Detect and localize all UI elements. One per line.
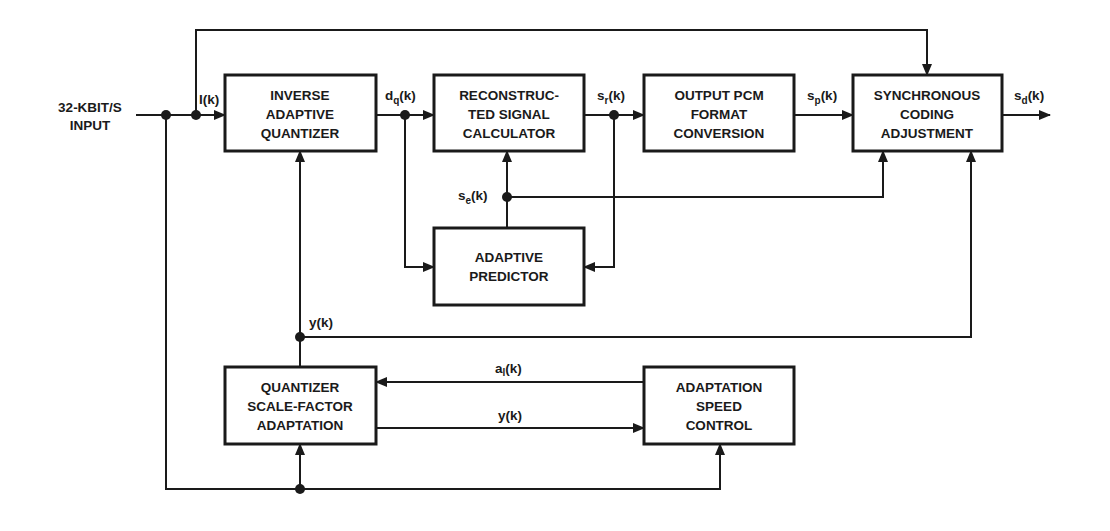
junction-dot	[400, 110, 410, 120]
signal-label-sd: sd(k)	[1014, 88, 1044, 106]
svg-text:RECONSTRUC-: RECONSTRUC-	[459, 88, 559, 103]
svg-text:QUANTIZER: QUANTIZER	[261, 126, 340, 141]
y-to-sync-wire	[300, 151, 971, 337]
signal-label-sr: sr(k)	[597, 88, 625, 106]
block-inverse-adaptive-quantizer: INVERSE ADAPTIVE QUANTIZER	[225, 75, 376, 151]
svg-text:TED SIGNAL: TED SIGNAL	[468, 107, 550, 122]
svg-text:ADJUSTMENT: ADJUSTMENT	[881, 126, 974, 141]
junction-dot	[295, 332, 305, 342]
svg-text:CALCULATOR: CALCULATOR	[463, 126, 556, 141]
signal-label-i: I(k)	[199, 92, 219, 107]
input-label-line1: 32-KBIT/S	[58, 100, 122, 115]
block-output-pcm-format-conversion: OUTPUT PCM FORMAT CONVERSION	[644, 75, 794, 151]
svg-text:CODING: CODING	[900, 107, 954, 122]
block-synchronous-coding-adjustment: SYNCHRONOUS CODING ADJUSTMENT	[853, 75, 1002, 151]
svg-text:ADAPTATION: ADAPTATION	[257, 418, 344, 433]
svg-text:ADAPTIVE: ADAPTIVE	[266, 107, 334, 122]
dq-to-predictor-wire	[405, 115, 434, 267]
input-label-line2: INPUT	[70, 118, 111, 133]
signal-label-y-mid: y(k)	[309, 315, 333, 330]
svg-text:SYNCHRONOUS: SYNCHRONOUS	[874, 88, 981, 103]
svg-text:ADAPTIVE: ADAPTIVE	[475, 250, 543, 265]
signal-label-dq: dq(k)	[385, 88, 416, 106]
adpcm-decoder-block-diagram: 32-KBIT/S INPUT	[0, 0, 1110, 531]
svg-text:ADAPTATION: ADAPTATION	[676, 380, 763, 395]
svg-text:SPEED: SPEED	[696, 399, 742, 414]
block-reconstructed-signal-calculator: RECONSTRUC- TED SIGNAL CALCULATOR	[434, 75, 584, 151]
sr-to-predictor-wire	[584, 115, 614, 267]
signal-label-y-low: y(k)	[498, 408, 522, 423]
svg-text:QUANTIZER: QUANTIZER	[261, 380, 340, 395]
svg-text:CONTROL: CONTROL	[686, 418, 753, 433]
block-quantizer-scale-factor-adaptation: QUANTIZER SCALE-FACTOR ADAPTATION	[225, 367, 376, 444]
svg-text:PREDICTOR: PREDICTOR	[469, 269, 549, 284]
junction-dot	[295, 484, 305, 494]
junction-dot	[609, 110, 619, 120]
junction-dot	[502, 192, 512, 202]
svg-text:SCALE-FACTOR: SCALE-FACTOR	[247, 399, 353, 414]
junction-dot	[161, 110, 171, 120]
signal-label-al: al(k)	[495, 361, 522, 378]
input-label: 32-KBIT/S INPUT	[58, 100, 122, 133]
junction-dot	[191, 110, 201, 120]
block-adaptation-speed-control: ADAPTATION SPEED CONTROL	[644, 367, 794, 444]
signal-label-sp: sp(k)	[807, 88, 837, 106]
block-adaptive-predictor: ADAPTIVE PREDICTOR	[434, 228, 584, 305]
svg-text:FORMAT: FORMAT	[691, 107, 748, 122]
se-to-sync-wire	[507, 151, 883, 197]
svg-text:CONVERSION: CONVERSION	[674, 126, 765, 141]
svg-text:INVERSE: INVERSE	[270, 88, 329, 103]
svg-text:OUTPUT PCM: OUTPUT PCM	[674, 88, 763, 103]
signal-label-se: se(k)	[458, 188, 488, 206]
